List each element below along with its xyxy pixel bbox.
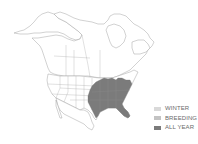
legend-item-all-year: ALL YEAR — [154, 123, 197, 132]
legend-label: BREEDING — [165, 114, 197, 123]
winter-swatch — [154, 107, 161, 111]
legend-label: WINTER — [165, 104, 189, 113]
legend-item-winter: WINTER — [154, 104, 197, 113]
land-outline — [14, 12, 154, 130]
legend-label: ALL YEAR — [165, 123, 194, 132]
legend-item-breeding: BREEDING — [154, 114, 197, 123]
all-year-swatch — [154, 126, 161, 130]
map-legend: WINTER BREEDING ALL YEAR — [154, 104, 197, 133]
range-all-year — [88, 78, 132, 118]
breeding-swatch — [154, 116, 161, 120]
